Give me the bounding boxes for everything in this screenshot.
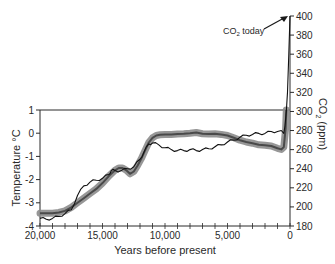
x-tick-label: 10,000 [150,230,181,241]
y-right-tick-label: 200 [296,201,313,212]
y-right-tick-label: 240 [296,163,313,174]
y-right-tick-label: 360 [296,49,313,60]
y-right-tick-label: 260 [296,144,313,155]
annotation-base: CO [223,26,237,36]
y-right-tick-label: 340 [296,68,313,79]
y-right-tick-label: 320 [296,87,313,98]
y-left-tick-label: 0 [28,128,34,139]
y-right-tick-label: 300 [296,106,313,117]
y-right-tick-label: 280 [296,125,313,136]
y-axis-left-label: Temperature °C [10,129,22,206]
y-left-tick-label: -1 [25,151,34,162]
chart-canvas: 10-1-2-3-4400380360340320300280260240220… [0,0,335,264]
y-axis-right-label-rest: (ppm) [317,118,329,150]
annotation-arrow-icon [264,16,288,29]
chart: 10-1-2-3-4400380360340320300280260240220… [0,0,335,264]
y-left-tick-label: -2 [25,174,34,185]
y-right-tick-label: 380 [296,30,313,41]
y-right-tick-label: 400 [296,11,313,22]
x-tick-label: 20,000 [25,230,56,241]
co2-today-annotation: CO2 today [223,26,265,37]
x-tick-label: 5,000 [215,230,240,241]
co2-line [40,16,290,220]
x-axis-label: Years before present [114,244,216,256]
x-tick-label: 0 [287,230,293,241]
co2-series [40,16,290,220]
y-left-tick-label: 1 [28,105,34,116]
y-right-tick-label: 220 [296,182,313,193]
x-tick-label: 15,000 [87,230,118,241]
y-left-tick-label: -3 [25,197,34,208]
y-right-tick-label: 180 [296,221,313,232]
annotation-rest: today [240,26,265,36]
y-axis-right-label: CO2 (ppm) [315,98,329,150]
y-axis-right-label-base: CO [317,98,329,115]
